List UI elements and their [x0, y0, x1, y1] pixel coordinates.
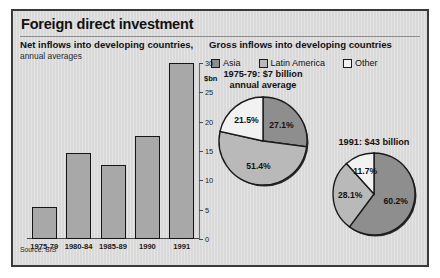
pie-slice-label: 28.1% — [338, 190, 362, 200]
pie-slice-label: 11.7% — [353, 166, 377, 176]
pie-slice-label: 60.2% — [384, 196, 408, 206]
chart-figure: Foreign direct investment Net inflows in… — [11, 9, 429, 267]
figure-background: Foreign direct investment Net inflows in… — [13, 11, 427, 265]
pie-chart-1991: 1991: $43 billion60.2%28.1%11.7% — [13, 11, 431, 269]
pie-svg — [13, 11, 431, 269]
